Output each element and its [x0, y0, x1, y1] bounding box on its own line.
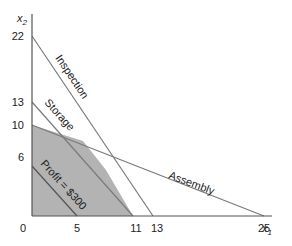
x-tick-11: 11 [130, 222, 141, 234]
y-axis-label: x2 [16, 12, 28, 27]
x-tick-0: 0 [20, 222, 26, 234]
y-tick-22: 22 [12, 30, 24, 42]
y-tick-6: 6 [18, 151, 24, 163]
x-tick-25: 25 [258, 222, 270, 234]
storage-label: Storage [43, 96, 78, 133]
feasible-region-chart: x2 x1 22 13 10 6 0 5 11 13 25 Inspection… [0, 0, 292, 246]
x-tick-5: 5 [74, 222, 80, 234]
x-tick-13: 13 [151, 222, 163, 234]
assembly-label: Assembly [167, 169, 216, 197]
y-tick-10: 10 [12, 119, 24, 131]
y-tick-13: 13 [12, 96, 24, 108]
